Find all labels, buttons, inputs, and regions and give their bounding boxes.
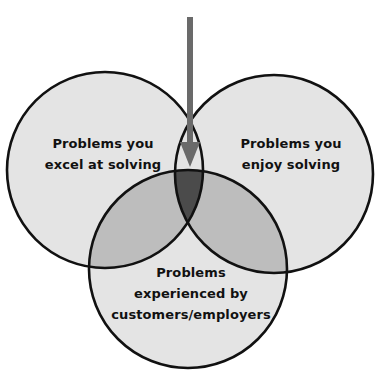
label-line: customers/employers: [96, 304, 286, 325]
label-enjoy-solving: Problems you enjoy solving: [216, 133, 366, 175]
down-arrow-icon: [180, 17, 200, 167]
label-line: enjoy solving: [216, 154, 366, 175]
label-line: Problems: [96, 262, 286, 283]
label-line: Problems you: [216, 133, 366, 154]
venn-diagram: [0, 0, 382, 386]
label-excel-at-solving: Problems you excel at solving: [28, 133, 178, 175]
label-line: experienced by: [96, 283, 286, 304]
label-line: excel at solving: [28, 154, 178, 175]
label-customer-problems: Problems experienced by customers/employ…: [96, 262, 286, 325]
label-line: Problems you: [28, 133, 178, 154]
